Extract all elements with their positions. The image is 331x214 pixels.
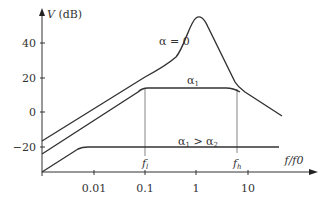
y-axis-title: V (dB) — [47, 8, 82, 21]
fl-label: fl — [141, 157, 148, 171]
label-alpha-1: α1 — [187, 74, 199, 88]
fh-label: fh — [232, 157, 242, 171]
label-alpha-1-gt-alpha-2: α1 > α2 — [178, 135, 218, 149]
x-axis-title: f/f0 — [284, 154, 304, 167]
y-tick-minus-20: −20 — [13, 141, 36, 154]
frequency-response-chart: 40 20 0 −20 0.01 0.1 1 10 V (dB) f/f0 fl… — [0, 0, 331, 214]
x-tick-0.1: 0.1 — [136, 182, 154, 195]
y-axis-arrow-icon — [39, 8, 45, 16]
y-tick-40: 40 — [22, 37, 36, 50]
x-tick-10: 10 — [241, 182, 255, 195]
y-tick-20: 20 — [22, 72, 36, 85]
x-axis-arrow-icon — [309, 169, 318, 175]
label-alpha-0: α = 0 — [159, 35, 190, 48]
x-tick-0.01: 0.01 — [82, 182, 107, 195]
curve-alpha-2 — [42, 147, 279, 172]
x-tick-1: 1 — [193, 182, 200, 195]
y-tick-0: 0 — [29, 106, 36, 119]
